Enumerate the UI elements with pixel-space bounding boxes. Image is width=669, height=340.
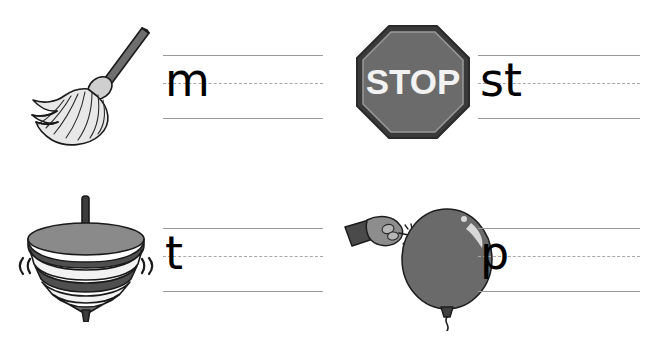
worksheet-item-stop-sign: STOP st: [335, 0, 669, 170]
letters-stop-sign: st: [480, 57, 522, 103]
motion-mark-left-outer: [20, 258, 23, 274]
stop-sign-illustration: STOP: [353, 22, 473, 142]
writing-guide-balloon: p: [478, 211, 640, 295]
motion-mark-right-inner: [142, 259, 144, 273]
worksheet-page: m STOP st: [0, 0, 669, 340]
writing-guide-stop-sign: st: [478, 38, 640, 122]
motion-mark-left-inner: [28, 259, 30, 273]
worksheet-item-spinning-top: t: [0, 170, 334, 340]
letter-slot-mop: m: [165, 38, 323, 122]
motion-mark-right-outer: [149, 258, 152, 274]
writing-guide-spinning-top: t: [163, 211, 323, 295]
balloon-illustration: [343, 186, 493, 331]
worksheet-item-mop: m: [0, 0, 334, 170]
letters-mop: m: [165, 57, 210, 103]
writing-guide-mop: m: [163, 38, 323, 122]
worksheet-item-balloon: p: [335, 170, 669, 340]
letter-slot-balloon: p: [480, 211, 638, 295]
spinning-top-illustration: [12, 190, 160, 322]
letter-slot-stop-sign: st: [480, 38, 638, 122]
letter-slot-spinning-top: t: [165, 211, 323, 295]
letters-spinning-top: t: [165, 230, 183, 276]
letters-balloon: p: [480, 230, 509, 276]
mop-illustration: [14, 16, 162, 154]
stop-sign-text: STOP: [366, 62, 461, 101]
